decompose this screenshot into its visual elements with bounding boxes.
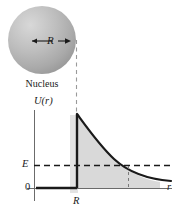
y-axis-label: U(r) <box>34 95 53 106</box>
barrier-radius-tick-label: R <box>73 195 79 206</box>
x-axis-label: r <box>167 181 171 192</box>
origin-label: 0 <box>25 181 30 192</box>
physics-figure: R Nucleus U(r) r E 0 R <box>0 0 177 220</box>
energy-level-label: E <box>22 158 28 169</box>
